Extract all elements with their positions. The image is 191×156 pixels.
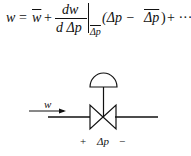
diaphragm-actuator-icon <box>90 73 117 87</box>
dp-label: Δp <box>97 136 109 147</box>
control-valve-diagram <box>0 0 191 156</box>
flow-label: w <box>44 99 51 110</box>
minus-label: − <box>119 136 125 147</box>
plus-label: + <box>80 136 86 147</box>
